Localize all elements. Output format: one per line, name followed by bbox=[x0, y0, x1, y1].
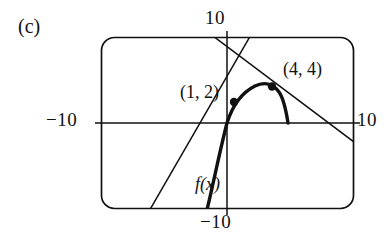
axis-tick-label-left: −10 bbox=[46, 110, 77, 129]
function-label: f(x) bbox=[195, 175, 220, 193]
data-point-1-2 bbox=[230, 98, 238, 106]
figure-container: (c) 10 −10 −10 10 (1, 2) (4, 4) f(x) bbox=[0, 0, 386, 243]
point-label-4-4: (4, 4) bbox=[283, 60, 322, 78]
axis-tick-label-right: 10 bbox=[357, 110, 377, 129]
axis-tick-label-bottom: −10 bbox=[200, 212, 231, 231]
data-point-4-4 bbox=[268, 82, 276, 90]
part-label: (c) bbox=[18, 16, 40, 36]
axis-tick-label-top: 10 bbox=[205, 8, 225, 27]
point-label-1-2: (1, 2) bbox=[180, 83, 219, 101]
